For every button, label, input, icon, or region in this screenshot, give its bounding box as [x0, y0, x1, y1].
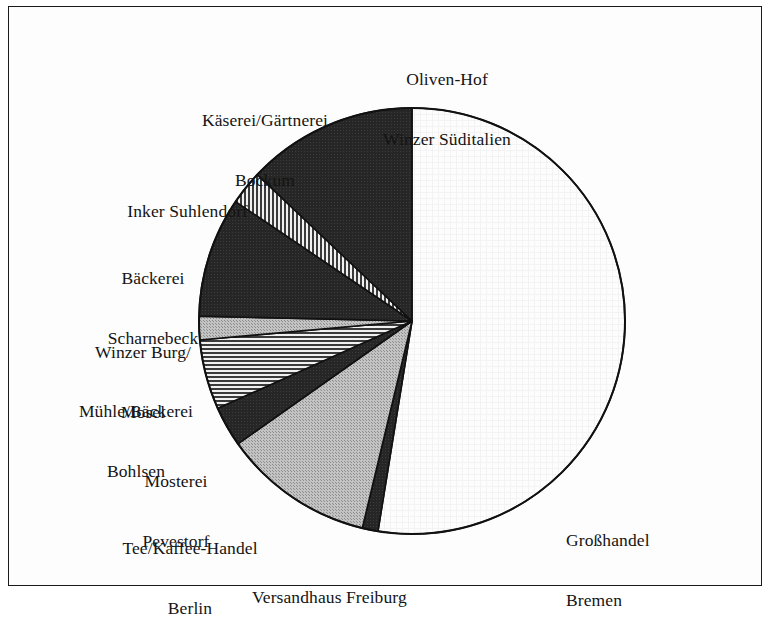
pie-label-grosshandel-bremen: Großhandel Bremen	[566, 489, 756, 618]
pie-label-kaeserei-line1: Käserei/Gärtnerei	[150, 110, 380, 130]
pie-label-inker-line1: Inker Suhlendorf	[40, 201, 248, 221]
pie-label-versandhaus-line1: Versandhaus Freiburg	[252, 587, 532, 607]
pie-label-mosterei-line1: Mosterei	[88, 471, 264, 491]
pie-label-muehle-line1: Mühle/Bäckerei	[38, 401, 234, 421]
pie-label-grosshandel-line2: Bremen	[566, 590, 756, 610]
pie-label-grosshandel-line1: Großhandel	[566, 530, 756, 550]
pie-label-winzer-burg-line1: Winzer Burg/	[52, 342, 234, 362]
pie-label-versandhaus-freiburg: Versandhaus Freiburg	[252, 546, 532, 618]
pie-label-baeckerei-scharnebeck-line1: Bäckerei	[58, 268, 248, 288]
